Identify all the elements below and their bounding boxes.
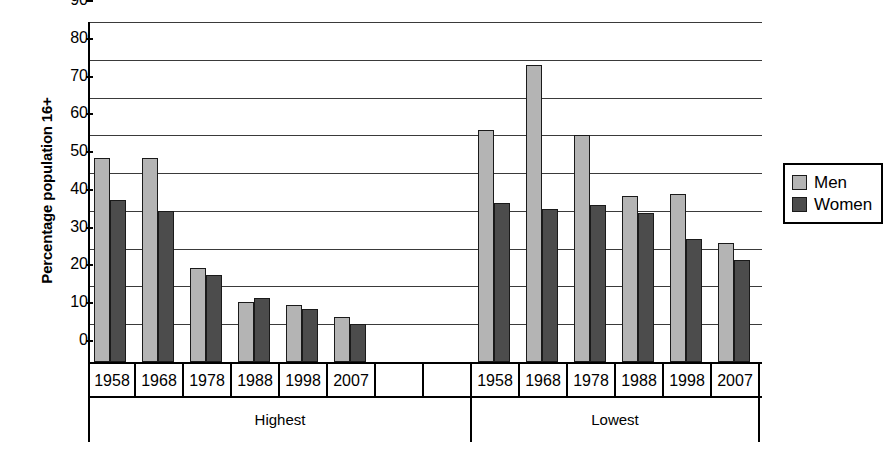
y-tick-label: 90 bbox=[42, 0, 88, 8]
bar-women bbox=[302, 309, 318, 362]
y-axis-ticks: 0102030405060708090 bbox=[0, 0, 88, 340]
group-axis: HighestLowest bbox=[88, 398, 762, 442]
y-tick-label: 20 bbox=[42, 256, 88, 272]
bar-group bbox=[666, 22, 714, 362]
bar-group bbox=[234, 22, 282, 362]
category-label-1988: 1988 bbox=[232, 364, 280, 398]
bar-women bbox=[542, 209, 558, 362]
bar-group bbox=[138, 22, 186, 362]
bar-men bbox=[478, 130, 494, 362]
bar-men bbox=[94, 158, 110, 362]
y-tick-label: 80 bbox=[42, 30, 88, 46]
legend-label-men: Men bbox=[814, 174, 847, 191]
bar-men bbox=[526, 65, 542, 362]
category-label-2007: 2007 bbox=[712, 364, 760, 398]
category-label-1978: 1978 bbox=[568, 364, 616, 398]
bar-group bbox=[618, 22, 666, 362]
bar-women bbox=[158, 211, 174, 362]
category-label-1958: 1958 bbox=[88, 364, 136, 398]
category-label-empty bbox=[376, 364, 424, 398]
bar-group bbox=[570, 22, 618, 362]
legend-label-women: Women bbox=[814, 196, 872, 213]
bar-men bbox=[622, 196, 638, 362]
category-label-1988: 1988 bbox=[616, 364, 664, 398]
bar-men bbox=[574, 135, 590, 362]
bar-women bbox=[206, 275, 222, 362]
bar-group bbox=[186, 22, 234, 362]
bar-women bbox=[350, 324, 366, 362]
y-tick-label: 0 bbox=[42, 332, 88, 348]
bar-group bbox=[522, 22, 570, 362]
bar-men bbox=[718, 243, 734, 362]
category-label-1968: 1968 bbox=[136, 364, 184, 398]
category-label-2007: 2007 bbox=[328, 364, 376, 398]
bar-chart: Percentage population 16+ 01020304050607… bbox=[0, 0, 886, 456]
plot-inner bbox=[90, 22, 762, 362]
bar-group bbox=[330, 22, 378, 362]
category-label-1998: 1998 bbox=[280, 364, 328, 398]
bar-women bbox=[254, 298, 270, 362]
bar-women bbox=[494, 203, 510, 362]
bar-group bbox=[282, 22, 330, 362]
legend-swatch-men-icon bbox=[792, 175, 807, 190]
bar-men bbox=[142, 158, 158, 362]
group-label-lowest: Lowest bbox=[472, 398, 760, 442]
bar-group bbox=[90, 22, 138, 362]
legend-item-women: Women bbox=[792, 193, 872, 215]
category-label-1968: 1968 bbox=[520, 364, 568, 398]
bar-women bbox=[110, 200, 126, 362]
category-label-1958: 1958 bbox=[472, 364, 520, 398]
bar-women bbox=[638, 213, 654, 362]
bar-men bbox=[334, 317, 350, 362]
bar-men bbox=[190, 268, 206, 362]
bar-women bbox=[686, 239, 702, 362]
y-tick-label: 10 bbox=[42, 294, 88, 310]
bar-group bbox=[474, 22, 522, 362]
bar-women bbox=[734, 260, 750, 362]
chart-legend: Men Women bbox=[783, 163, 883, 224]
category-label-1978: 1978 bbox=[184, 364, 232, 398]
group-label-highest: Highest bbox=[88, 398, 472, 442]
bar-men bbox=[670, 194, 686, 362]
y-tick-label: 30 bbox=[42, 219, 88, 235]
y-tick-label: 50 bbox=[42, 143, 88, 159]
legend-swatch-women-icon bbox=[792, 197, 807, 212]
bar-group bbox=[714, 22, 762, 362]
legend-item-men: Men bbox=[792, 171, 872, 193]
bar-men bbox=[238, 302, 254, 362]
y-tick-label: 40 bbox=[42, 181, 88, 197]
y-tick-label: 70 bbox=[42, 68, 88, 84]
category-axis: 1958196819781988199820071958196819781988… bbox=[88, 364, 762, 398]
category-label-empty bbox=[424, 364, 472, 398]
bar-women bbox=[590, 205, 606, 362]
bar-men bbox=[286, 305, 302, 362]
category-label-1998: 1998 bbox=[664, 364, 712, 398]
plot-area bbox=[88, 22, 762, 364]
y-tick-label: 60 bbox=[42, 105, 88, 121]
y-tick-mark bbox=[86, 0, 93, 2]
